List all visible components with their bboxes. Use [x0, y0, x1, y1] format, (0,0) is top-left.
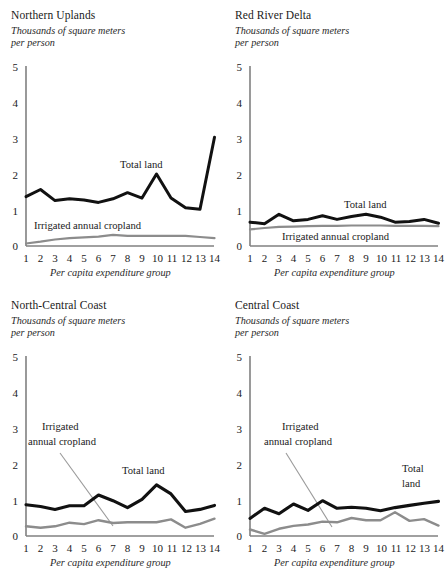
y-tick-3: 3	[237, 133, 243, 145]
series-irrigated-annual-cropland	[26, 519, 215, 528]
x-tick-6: 6	[320, 542, 326, 554]
y-tick-5: 5	[13, 351, 19, 363]
x-tick-8: 8	[349, 252, 355, 264]
series-total-land	[26, 137, 215, 209]
x-tick-5: 5	[81, 542, 87, 554]
x-tick-1: 1	[247, 252, 253, 264]
label-irrigated-line2: annual cropland	[28, 436, 97, 447]
panel-north-central-coast: North-Central Coast Thousands of square …	[0, 290, 224, 583]
y-tick-3: 3	[13, 133, 19, 145]
label-irrigated-line1: Irrigated	[42, 421, 79, 432]
label-irrigated-annual-cropland: Irrigated annual cropland	[282, 231, 390, 242]
x-tick-1: 1	[247, 542, 253, 554]
y-axis: 5 4 3 2 1 0	[13, 351, 27, 542]
series-irrigated-annual-cropland	[250, 512, 439, 534]
label-irrigated-annual-cropland: Irrigated annual cropland	[34, 220, 142, 231]
y-tick-4: 4	[13, 97, 19, 109]
y-tick-3: 3	[237, 423, 243, 435]
y-tick-2: 2	[237, 169, 243, 181]
y-tick-5: 5	[13, 61, 19, 73]
x-tick-9: 9	[139, 252, 145, 264]
plot-area-red-river-delta: 5 4 3 2 1 0 Total land Irrigated annual …	[224, 0, 448, 290]
y-tick-4: 4	[13, 387, 19, 399]
y-axis: 5 4 3 2 1 0	[237, 351, 251, 542]
y-tick-0: 0	[237, 530, 243, 542]
label-total-land: Total land	[120, 159, 163, 170]
x-tick-2: 2	[38, 542, 44, 554]
series-irrigated-annual-cropland	[250, 226, 439, 230]
x-tick-14: 14	[433, 252, 445, 264]
x-tick-10: 10	[152, 542, 164, 554]
leader-line-irrigated	[286, 453, 332, 527]
x-tick-12: 12	[405, 542, 416, 554]
x-tick-2: 2	[262, 542, 268, 554]
x-tick-11: 11	[167, 542, 178, 554]
y-tick-4: 4	[237, 387, 243, 399]
panel-northern-uplands: Northern Uplands Thousands of square met…	[0, 0, 224, 290]
x-tick-3: 3	[52, 252, 58, 264]
plot-area-northern-uplands: 5 4 3 2 1 0 Total land Irrigated annual …	[0, 0, 224, 290]
y-tick-1: 1	[13, 495, 19, 507]
x-tick-12: 12	[181, 252, 192, 264]
x-tick-1: 1	[23, 252, 29, 264]
x-tick-7: 7	[110, 542, 116, 554]
label-irrigated-line2: annual cropland	[264, 436, 333, 447]
x-tick-9: 9	[139, 542, 145, 554]
leader-line-irrigated	[60, 453, 113, 526]
x-axis-label: Per capita expenditure group	[274, 557, 395, 568]
x-tick-5: 5	[305, 252, 311, 264]
x-tick-11: 11	[391, 542, 402, 554]
y-tick-2: 2	[13, 459, 19, 471]
y-tick-0: 0	[13, 530, 19, 542]
panel-red-river-delta: Red River Delta Thousands of square mete…	[224, 0, 448, 290]
chart-grid: Northern Uplands Thousands of square met…	[0, 0, 448, 583]
x-tick-3: 3	[276, 252, 282, 264]
x-tick-13: 13	[419, 252, 431, 264]
y-tick-1: 1	[237, 205, 243, 217]
x-tick-6: 6	[320, 252, 326, 264]
x-tick-12: 12	[181, 542, 192, 554]
x-ticks: 1 2 3 4 5 6 7 8 9 10 11 12 13 14	[23, 252, 220, 264]
label-total-land: Total land	[344, 199, 387, 210]
x-tick-13: 13	[195, 542, 207, 554]
plot-area-central-coast: 5 4 3 2 1 0 Irrigated annual cropland To…	[224, 290, 448, 583]
x-tick-8: 8	[349, 542, 355, 554]
y-tick-2: 2	[13, 169, 19, 181]
x-tick-7: 7	[110, 252, 116, 264]
y-tick-0: 0	[13, 240, 19, 252]
panel-central-coast: Central Coast Thousands of square meters…	[224, 290, 448, 583]
x-tick-2: 2	[38, 252, 44, 264]
series-total-land	[26, 485, 215, 512]
x-tick-1: 1	[23, 542, 29, 554]
x-tick-4: 4	[291, 252, 297, 264]
label-total-line2: land	[402, 478, 421, 489]
y-tick-3: 3	[13, 423, 19, 435]
label-irrigated-line1: Irrigated	[282, 421, 319, 432]
series-irrigated-annual-cropland	[26, 235, 215, 244]
x-tick-11: 11	[167, 252, 178, 264]
x-tick-10: 10	[376, 542, 388, 554]
x-tick-14: 14	[433, 542, 445, 554]
x-tick-13: 13	[419, 542, 431, 554]
x-tick-5: 5	[305, 542, 311, 554]
x-axis-label: Per capita expenditure group	[274, 267, 395, 278]
x-ticks: 1 2 3 4 5 6 7 8 9 10 11 12 13 14	[23, 542, 220, 554]
x-tick-4: 4	[67, 542, 73, 554]
y-tick-5: 5	[237, 61, 243, 73]
x-axis-label: Per capita expenditure group	[50, 267, 171, 278]
x-axis-label: Per capita expenditure group	[50, 557, 171, 568]
y-tick-4: 4	[237, 97, 243, 109]
plot-area-north-central-coast: 5 4 3 2 1 0 Irrigated annual cropland To…	[0, 290, 224, 583]
x-ticks: 1 2 3 4 5 6 7 8 9 10 11 12 13 14	[247, 252, 444, 264]
y-tick-5: 5	[237, 351, 243, 363]
y-axis: 5 4 3 2 1 0	[237, 61, 251, 252]
y-tick-0: 0	[237, 240, 243, 252]
x-tick-9: 9	[363, 542, 369, 554]
x-tick-13: 13	[195, 252, 207, 264]
y-tick-1: 1	[13, 205, 19, 217]
x-tick-3: 3	[52, 542, 58, 554]
label-total-land: Total land	[122, 465, 165, 476]
x-tick-14: 14	[209, 542, 221, 554]
y-tick-2: 2	[237, 459, 243, 471]
label-total-line1: Total	[402, 463, 424, 474]
